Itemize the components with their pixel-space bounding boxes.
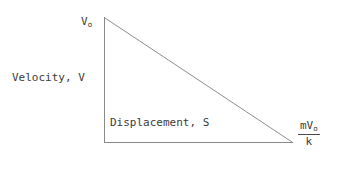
y-axis-max-tick-symbol: V <box>81 15 88 28</box>
velocity-displacement-figure: · · Vo Velocity, V Displacement, S mVo k <box>0 0 341 170</box>
y-axis-max-tick-label: Vo <box>81 16 92 29</box>
x-axis-title: Displacement, S <box>110 117 209 129</box>
plot-canvas <box>0 0 341 170</box>
x-axis-max-tick-label: mVo k <box>298 120 320 148</box>
x-axis-max-denominator: k <box>298 135 320 148</box>
x-axis-max-numerator-symbol: mV <box>300 119 313 132</box>
y-axis-title: Velocity, V <box>12 72 85 84</box>
x-axis-max-numerator: mVo <box>298 120 320 135</box>
y-axis-max-tick-subscript: o <box>88 20 93 29</box>
x-axis-max-numerator-subscript: o <box>313 124 318 133</box>
